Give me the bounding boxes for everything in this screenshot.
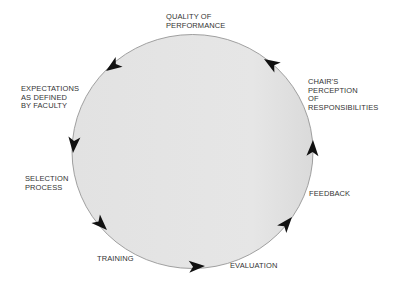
stage-label-chairs-perception: CHAIR'S PERCEPTION OF RESPONSIBILITIES <box>308 78 378 112</box>
cycle-diagram: QUALITY OF PERFORMANCE EXPECTATIONS AS D… <box>0 0 401 285</box>
stage-label-feedback: FEEDBACK <box>309 190 350 199</box>
stage-label-selection: SELECTION PROCESS <box>25 175 68 192</box>
cycle-circle <box>0 0 401 285</box>
stage-label-expectations: EXPECTATIONS AS DEFINED BY FACULTY <box>21 85 79 111</box>
stage-label-training: TRAINING <box>97 255 134 264</box>
stage-label-evaluation: EVALUATION <box>230 262 277 271</box>
stage-label-quality: QUALITY OF PERFORMANCE <box>166 13 225 30</box>
